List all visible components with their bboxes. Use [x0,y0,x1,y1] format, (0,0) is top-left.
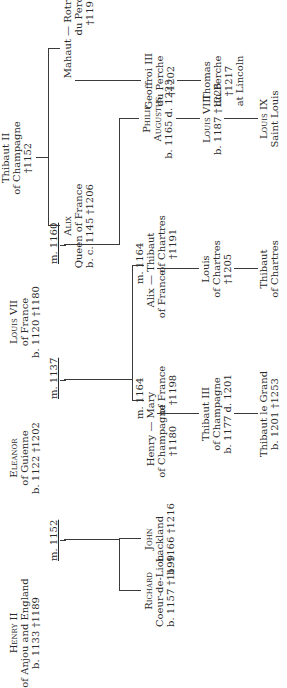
person-geoffroi-iii: Geoffroi III du Perche †1202 [143,53,176,109]
name: Thibaut III [200,374,211,454]
name: Henry [145,435,156,467]
dates: b. 1177 d. 1201 [222,374,233,454]
marriage-1137: m. 1137 [48,358,59,399]
henry-champagne-details: of Champagne †1180 [156,404,178,478]
title: Lackland [154,503,165,575]
line [176,118,200,119]
line [48,48,49,226]
name: Alix [62,184,73,269]
title: of France [156,366,167,415]
title: of Chartres [156,215,167,273]
person-thibaut-chartres-2: Thibaut of Chartres [258,240,280,298]
line [169,268,199,269]
marriage-1160: m. 1160 [48,223,59,264]
line [224,118,258,119]
dates: †1152 [22,121,33,195]
title: du Perche [154,53,165,109]
line [36,157,48,158]
dates: †1202 [165,53,176,109]
name: Louis [200,240,211,298]
rotrou-details: du Perche †1191 [73,0,95,35]
line [132,265,133,401]
name: John [143,503,154,575]
marriage-1164-alix-thibaut: m. 1164 [134,243,145,284]
name: Louis VII [8,286,19,358]
dates: †1205 [222,240,233,298]
title: Saint Louis [269,90,280,147]
dates: †1191 [167,215,178,273]
title: b. 1201 †1253 [269,371,280,457]
line [119,118,120,245]
person-thibaut-le-grand: Thibaut le Grand b. 1201 †1253 [258,371,280,457]
title: du Perche [73,0,84,35]
title: of France [156,270,167,319]
title: of Champagne [211,374,222,454]
dates: b. c. 1145 †1206 [84,184,95,269]
dates: †1198 [167,366,178,415]
line [48,48,60,49]
dates: †1180 [167,404,178,478]
marriage-dash: — [62,26,73,36]
dates: b. 1133 †1189 [30,578,41,687]
dates: b. 1122 †1202 [30,422,41,494]
line [157,268,169,269]
line [177,80,201,81]
person-thibaut-ii: Thibaut II of Champagne †1152 [0,121,33,195]
line [48,225,60,226]
person-louis-vii: Louis VII of France b. 1120 †1180 [8,286,41,358]
title: of Guienne [19,422,30,494]
title: of Chartres [269,240,280,298]
line [64,540,65,541]
name: Mahaut [62,39,73,78]
line [119,539,120,591]
person-eleanor: Eleanor of Guienne b. 1122 †1202 [8,422,41,494]
marriage-dash: — [145,422,156,432]
title: of Champagne [11,121,22,195]
marriage-1164-henry-mary: m. 1164 [134,378,145,419]
person-mahaut-rotrou: Mahaut — Rotrou [62,0,73,78]
line [119,590,141,591]
name: Thibaut le Grand [258,371,269,457]
person-alix-thibaut: Alix — Thibaut [145,233,156,308]
line [140,80,141,81]
name: Geoffroi III [143,53,154,109]
person-louis-ix: Louis IX Saint Louis [258,90,280,147]
dates: †1217 [223,56,234,107]
person-john: John Lackland b. 1166 †1216 [143,503,176,575]
line [234,268,258,269]
dates: b. 1166 †1216 [165,503,176,575]
mary-details: of France †1198 [156,366,178,415]
line [119,538,141,539]
line [75,80,140,81]
person-alix-queen: Alix Queen of France b. c. 1145 †1206 [62,184,95,269]
name: Louis IX [258,90,269,147]
name: Thomas [201,56,212,107]
dates: b. 1120 †1180 [30,286,41,358]
thibaut-chartres-details: of Chartres †1191 [156,215,178,273]
dates: †1191 [84,0,95,35]
person-henry-ii: Henry II of Anjou and England b. 1133 †1… [8,578,41,687]
line [64,539,120,540]
name: Alix [145,288,156,307]
spouse-name: Mary [145,392,156,419]
line [60,540,66,541]
name: Thibaut II [0,121,11,195]
marriage-dash: — [145,275,156,285]
title: Queen of France [73,184,84,269]
title: of Chartres [211,240,222,298]
line [119,118,139,119]
alix-details: of France [156,270,167,319]
name: Eleanor [8,422,19,494]
person-louis-chartres: Louis of Chartres †1205 [200,240,233,298]
title: of Anjou and England [19,578,30,687]
line [64,379,132,380]
marriage-1152: m. 1152 [48,520,59,561]
name: Thibaut [258,240,269,298]
line [234,413,258,414]
line [157,413,169,414]
line [169,413,199,414]
title: du Perche [212,56,223,107]
person-thomas-du-perche: Thomas du Perche †1217 at Lincoln [201,56,245,107]
person-thibaut-iii: Thibaut III of Champagne b. 1177 d. 1201 [200,374,233,454]
